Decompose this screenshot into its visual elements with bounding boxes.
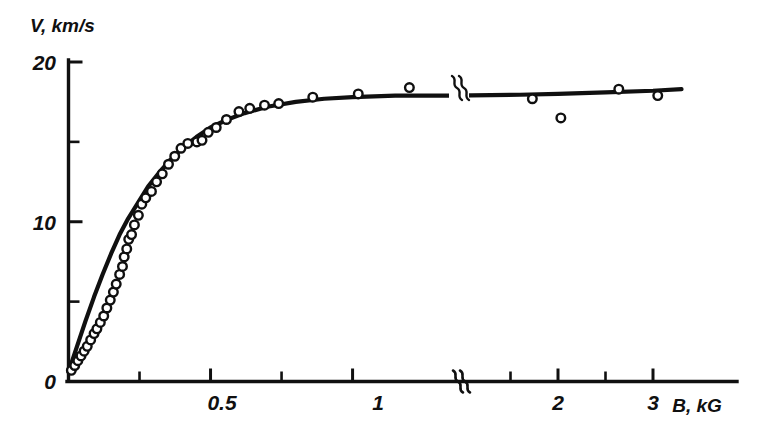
data-point-marker [653, 91, 662, 100]
data-point-marker [170, 152, 179, 161]
y-tick-label-0: 0 [44, 370, 56, 393]
data-point-marker [405, 83, 414, 92]
curve-break-icon [449, 75, 469, 101]
y-tick-label-20: 20 [32, 51, 57, 74]
y-tick-label-10: 10 [33, 211, 57, 234]
data-point-marker [134, 211, 143, 220]
tick-marks-group [69, 62, 654, 382]
data-point-marker [245, 104, 254, 113]
data-point-marker [235, 107, 244, 116]
axes-group [67, 60, 737, 382]
data-point-marker [147, 187, 156, 196]
data-point-marker [615, 85, 624, 94]
data-point-marker [158, 170, 167, 179]
data-point-marker [164, 160, 173, 169]
plot-canvas: 20 10 0 0.5 1 2 3 V, km/s B, kG [0, 0, 775, 435]
x-axis-title: B, kG [672, 395, 722, 416]
data-point-marker [528, 94, 537, 103]
data-point-marker [118, 262, 127, 271]
data-point-marker [309, 93, 318, 102]
data-point-marker [212, 123, 221, 132]
data-point-marker [274, 99, 283, 108]
x-tick-label-0-5: 0.5 [207, 391, 237, 414]
theoretical-curve [69, 89, 682, 372]
data-point-marker [557, 114, 566, 123]
data-point-marker [184, 139, 193, 148]
y-axis-title: V, km/s [30, 15, 95, 36]
tick-labels-group: 20 10 0 0.5 1 2 3 [32, 51, 660, 414]
data-points-group [67, 83, 662, 374]
data-point-marker [127, 230, 136, 239]
data-point-marker [260, 101, 269, 110]
x-tick-label-3: 3 [647, 391, 659, 414]
data-point-marker [354, 90, 363, 99]
x-tick-label-2: 2 [551, 391, 564, 414]
data-point-marker [152, 178, 161, 187]
chart-figure: 20 10 0 0.5 1 2 3 V, km/s B, kG [0, 0, 775, 435]
data-point-marker [122, 245, 131, 254]
data-point-marker [222, 115, 231, 124]
data-point-marker [198, 136, 207, 145]
x-tick-label-1: 1 [372, 391, 384, 414]
data-point-marker [130, 221, 139, 230]
data-point-marker [112, 280, 121, 289]
